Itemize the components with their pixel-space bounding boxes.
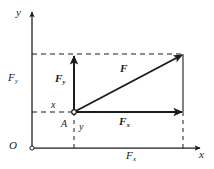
vector-force-resultant-label: F <box>120 63 127 74</box>
vector-force-y-label-sub: y <box>63 78 66 85</box>
point-a-marker <box>72 110 77 115</box>
vector-force-x-label: Fx <box>119 116 130 127</box>
vector-force-y-label: Fy <box>55 73 65 84</box>
origin-label: O <box>9 140 17 151</box>
vector-force-resultant <box>74 55 182 112</box>
point-a-label: A <box>61 119 67 129</box>
point-y-offset-label: y <box>79 122 83 132</box>
figure-canvas <box>0 0 214 169</box>
x-component-axis-label-base: F <box>126 149 133 161</box>
vector-force-resultant-label-base: F <box>120 62 127 74</box>
x-axis-label: x <box>199 149 204 160</box>
point-x-offset-label: x <box>51 100 55 110</box>
origin-marker <box>30 146 34 150</box>
y-component-axis-label-base: F <box>8 71 15 83</box>
vector-force-x-label-base: F <box>119 115 126 127</box>
y-component-axis-label-sub: y <box>15 77 18 84</box>
y-axis-label: y <box>16 7 21 18</box>
y-component-axis-label: Fy <box>8 72 18 83</box>
vector-force-y-label-base: F <box>55 72 62 84</box>
vector-force-x-label-sub: x <box>127 121 130 128</box>
x-component-axis-label: Fx <box>126 150 136 161</box>
force-diagram-figure: y x O Fy Fx x y A Fy F Fx <box>0 0 214 169</box>
x-component-axis-label-sub: x <box>133 155 136 162</box>
